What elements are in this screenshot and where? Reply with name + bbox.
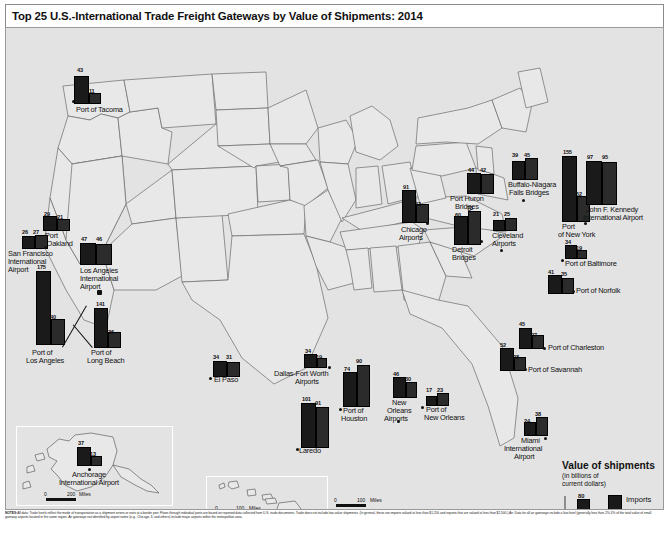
map-frame: 43 11 Port of Tacoma 29 21 Port of Oakla… (5, 27, 664, 510)
notes-block: NOTES:All data: Trade levels reflect the… (5, 511, 662, 538)
jfk-label-line2: International Airport (583, 214, 643, 222)
savannah-imports-bar (500, 348, 514, 371)
tacoma-exports-value: 11 (89, 89, 95, 95)
cleveland-imports-value: 21 (493, 212, 499, 218)
savannah-exports-value: 28 (513, 355, 519, 361)
anchorage-imports-value: 37 (78, 441, 84, 447)
legend-imports-label: Imports (626, 495, 651, 504)
houston-imports-value: 74 (344, 367, 350, 373)
miami-imports-value: 24 (524, 419, 530, 425)
marker-tacoma[interactable]: 43 11 Port of Tacoma (74, 74, 101, 104)
marker-new-orleans-airports[interactable]: 46 30 New Orleans Airports (393, 378, 417, 398)
miami-exports-bar (536, 417, 548, 436)
marker-lax[interactable]: 47 46 Los Angeles International Airport (80, 243, 112, 265)
marker-detroit-bridges[interactable]: 60 73 Detroit Bridges (454, 212, 481, 245)
marker-buffalo-niagara[interactable]: 39 45 Buffalo-Niagara Falls Bridges (512, 159, 538, 180)
alaska-inset: 37 13 Anchorage International Airport 0 … (16, 426, 173, 506)
main-scale-hundred: 100 (357, 497, 365, 503)
main-scale-line (336, 504, 366, 507)
laredo-label: Laredo (299, 447, 321, 455)
norfolk-label: Port of Norfolk (576, 287, 620, 295)
oakland-imports-bar (43, 216, 57, 231)
marker-sfo[interactable]: 26 27 San Francisco International Airpor… (22, 236, 48, 249)
longbeach-label-line2: Long Beach (87, 357, 124, 365)
la-port-point (97, 290, 102, 295)
marker-port-los-angeles[interactable]: 175 40 Port of Los Angeles (36, 271, 65, 345)
marker-laredo[interactable]: 101 91 Laredo (301, 403, 329, 448)
marker-jfk[interactable]: 97 95 John F. Kennedy International Airp… (586, 161, 617, 205)
porthuron-imports-bar (467, 173, 481, 194)
baltimore-imports-value: 34 (565, 240, 571, 246)
hawaii-scale-zero: 0 (215, 505, 218, 510)
hawaii-outline (207, 477, 327, 510)
sfo-imports-bar (22, 236, 35, 249)
chicago-label-line2: Airports (399, 234, 423, 242)
charleston-imports-value: 45 (519, 322, 525, 328)
hawaii-scale-hundred: 100 (236, 505, 244, 510)
oakland-imports-value: 29 (44, 212, 50, 218)
laredo-exports-bar (316, 407, 329, 448)
marker-cleveland-airports[interactable]: 21 25 Cleveland Airports (493, 218, 517, 231)
chicago-imports-value: 91 (403, 185, 409, 191)
savannah-point (524, 368, 527, 371)
marker-port-norfolk[interactable]: 41 35 Port of Norfolk (548, 276, 574, 294)
savannah-imports-value: 52 (500, 343, 506, 349)
marker-port-savannah[interactable]: 52 28 Port of Savannah (500, 349, 526, 371)
buffalo-imports-bar (512, 161, 525, 180)
hawaii-scale-unit: Miles (249, 505, 261, 510)
newyork-imports-value: 155 (563, 150, 572, 156)
elpaso-imports-value: 34 (213, 355, 219, 361)
tacoma-point (72, 100, 75, 103)
cleveland-exports-bar (505, 218, 517, 231)
marker-miami[interactable]: 24 38 Miami International Airport (524, 418, 548, 436)
miami-exports-value: 38 (535, 412, 541, 418)
buffalo-label-line2: Falls Bridges (509, 189, 549, 197)
marker-el-paso[interactable]: 34 31 El Paso (213, 361, 240, 377)
marker-anchorage[interactable]: 37 13 Anchorage International Airport (77, 447, 102, 466)
cleveland-point (500, 249, 503, 252)
houston-imports-bar (343, 372, 357, 407)
legend-body: 80 40 Imports Exports (562, 494, 664, 510)
noport-point (421, 406, 424, 409)
marker-port-charleston[interactable]: 45 27 Port of Charleston (519, 328, 544, 349)
houston-point (339, 408, 342, 411)
marker-oakland[interactable]: 29 21 Port of Oakland (43, 213, 70, 231)
portla-imports-bar (36, 271, 51, 345)
notes-heading: NOTES: (5, 511, 17, 515)
chicago-imports-bar (402, 190, 416, 223)
title-bar: Top 25 U.S.-International Trade Freight … (5, 4, 664, 28)
newyork-exports-value: 52 (576, 192, 582, 198)
main-scale-unit: Miles (370, 497, 382, 503)
savannah-label: Port of Savannah (528, 366, 582, 374)
detroit-imports-value: 60 (455, 213, 461, 219)
charleston-label: Port of Charleston (548, 344, 604, 352)
dfw-point (328, 366, 331, 369)
jfk-exports-value: 95 (602, 155, 608, 161)
marker-port-long-beach[interactable]: 141 36 Port of Long Beach (94, 308, 121, 348)
tacoma-label: Port of Tacoma (76, 106, 123, 114)
marker-port-new-orleans[interactable]: 17 23 Port of New Orleans (426, 394, 449, 406)
baltimore-label: Port of Baltimore (565, 260, 617, 268)
tacoma-imports-bar (74, 76, 89, 104)
marker-port-houston[interactable]: 74 90 Port of Houston (343, 365, 370, 407)
lax-exports-bar (96, 244, 112, 265)
cleveland-label-line2: Airports (492, 240, 516, 248)
norfolk-exports-value: 35 (561, 272, 567, 278)
jfk-exports-bar (602, 162, 617, 205)
marker-dfw[interactable]: 34 19 Dallas-Fort Worth Airports (304, 355, 327, 368)
jfk-imports-value: 97 (587, 155, 593, 161)
marker-chicago-airports[interactable]: 91 43 Chicago Airports (402, 191, 429, 223)
norfolk-imports-value: 41 (548, 270, 554, 276)
notes-text: All data: Trade levels reflect the mode … (5, 511, 651, 519)
tacoma-exports-bar (89, 93, 101, 104)
houston-exports-value: 90 (356, 359, 362, 365)
oakland-exports-bar (57, 219, 70, 231)
cleveland-imports-bar (493, 220, 505, 231)
longbeach-imports-bar (94, 308, 108, 348)
alaska-scale-unit: Miles (79, 491, 91, 497)
marker-port-huron-bridges[interactable]: 44 42 Port Huron Bridges (467, 174, 494, 194)
buffalo-exports-bar (525, 158, 538, 180)
anchorage-imports-bar (77, 447, 91, 466)
sfo-label-line3: Airport (8, 266, 28, 274)
marker-port-baltimore[interactable]: 34 19 Port of Baltimore (565, 246, 587, 259)
